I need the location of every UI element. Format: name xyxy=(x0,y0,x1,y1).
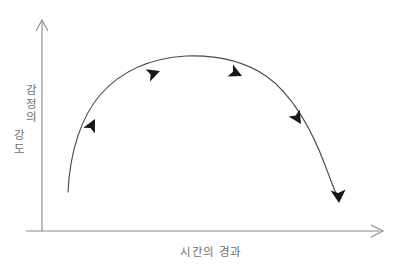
y-axis-label-column-2: 강 도 xyxy=(14,129,25,156)
y-axis-label-glyph: 정 xyxy=(26,98,37,112)
emotion-intensity-figure: 감 정 의 강 도 시간의 경과 xyxy=(0,0,407,273)
emotion-curve-path xyxy=(68,56,338,199)
figure-canvas xyxy=(0,0,407,273)
y-axis-label-glyph: 강 xyxy=(14,129,25,143)
x-axis-group xyxy=(26,225,383,237)
y-axis-label-glyph: 감 xyxy=(26,84,37,98)
x-axis-label: 시간의 경과 xyxy=(180,243,242,259)
curve-direction-arrow-4-icon xyxy=(289,110,307,128)
curve-direction-arrow-1-icon xyxy=(83,116,100,133)
curve-direction-arrow-5-icon xyxy=(331,190,347,204)
emotion-curve-group xyxy=(68,56,346,204)
y-axis-label-glyph: 의 xyxy=(26,111,37,125)
y-axis-label: 감 정 의 강 도 xyxy=(14,84,37,156)
y-axis-label-glyph: 도 xyxy=(14,143,25,157)
curve-direction-arrow-2-icon xyxy=(146,65,163,82)
y-axis-label-column-1: 감 정 의 xyxy=(26,84,37,125)
y-axis-group xyxy=(36,20,48,231)
curve-direction-arrow-3-icon xyxy=(227,65,244,82)
